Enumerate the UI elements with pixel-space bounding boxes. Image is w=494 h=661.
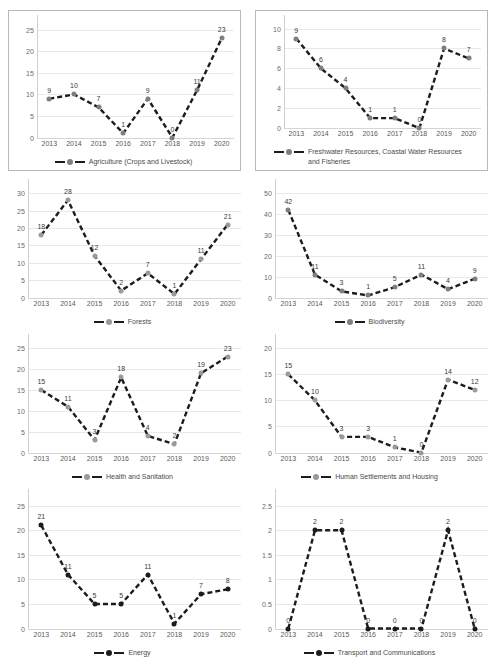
- series-line: [275, 179, 488, 298]
- x-axis-labels: 20132014201520162017201820192020: [28, 453, 241, 468]
- data-point-marker: [392, 116, 397, 121]
- data-point-marker: [312, 528, 317, 533]
- x-tick-label: 2019: [440, 631, 456, 638]
- x-tick-label: 2018: [414, 631, 430, 638]
- data-point-marker: [419, 272, 424, 277]
- y-tick-label: 25: [17, 207, 25, 214]
- chart-legend: Freshwater Resources, Coastal Water Reso…: [260, 143, 481, 168]
- x-axis-labels: 20132014201520162017201820192020: [284, 128, 481, 143]
- y-tick-label: 10: [17, 576, 25, 583]
- data-label: 11: [311, 263, 318, 270]
- data-point-marker: [47, 96, 52, 101]
- data-label: 21: [37, 513, 45, 520]
- data-label: 9: [294, 27, 298, 34]
- x-tick-label: 2016: [115, 140, 131, 147]
- x-tick-label: 2016: [360, 455, 376, 462]
- x-tick-label: 2014: [60, 631, 76, 638]
- y-tick-label: 8: [277, 45, 281, 52]
- data-point-marker: [472, 387, 477, 392]
- x-axis-labels: 20132014201520162017201820192020: [28, 298, 241, 313]
- data-label: 4: [344, 76, 348, 83]
- chart-panel-freshwater: 0246810964110872013201420152016201720182…: [255, 10, 488, 171]
- data-point-marker: [286, 207, 291, 212]
- data-label: 15: [284, 362, 292, 369]
- data-point-marker: [339, 289, 344, 294]
- plot-region: 00.511.522.502200020: [251, 489, 488, 629]
- y-tick-label: 10: [26, 91, 34, 98]
- plot-area: 02200020: [275, 489, 488, 629]
- data-label: 1: [366, 283, 370, 290]
- data-label: 5: [393, 275, 397, 282]
- data-point-marker: [199, 257, 204, 262]
- y-tick-label: 0: [21, 294, 25, 301]
- y-tick-label: 5: [21, 277, 25, 284]
- plot-area: 151033101412: [275, 334, 488, 453]
- x-tick-label: 2015: [87, 455, 103, 462]
- plot-region: 051015202591071901123: [13, 15, 234, 138]
- x-tick-label: 2013: [34, 300, 50, 307]
- plot-region: 024681096411087: [260, 15, 481, 128]
- plot-area: 91071901123: [37, 15, 234, 138]
- chart-panel-transport-communications: 00.511.522.50220002020132014201520162017…: [247, 485, 494, 661]
- data-point-marker: [343, 86, 348, 91]
- y-tick-label: 15: [17, 386, 25, 393]
- data-point-marker: [65, 572, 70, 577]
- series-line: [275, 334, 488, 453]
- y-tick-label: 0: [268, 625, 272, 632]
- data-label: 0: [286, 617, 290, 624]
- chart-legend: Transport and Communications: [251, 644, 488, 659]
- y-tick-label: 5: [268, 423, 272, 430]
- data-point-marker: [39, 523, 44, 528]
- x-tick-label: 2014: [313, 130, 329, 137]
- x-tick-label: 2016: [360, 631, 376, 638]
- legend-label: Freshwater Resources, Coastal Water Reso…: [308, 147, 467, 166]
- data-label: 9: [47, 87, 51, 94]
- x-tick-label: 2019: [193, 631, 209, 638]
- data-label: 0: [419, 617, 423, 624]
- legend-swatch-icon: [304, 649, 334, 657]
- data-point-marker: [339, 434, 344, 439]
- data-label: 2: [446, 518, 450, 525]
- y-tick-label: 15: [17, 551, 25, 558]
- data-point-marker: [368, 116, 373, 121]
- data-label: 23: [224, 345, 232, 352]
- x-tick-label: 2013: [42, 140, 58, 147]
- data-label: 2: [340, 518, 344, 525]
- legend-label: Human Settlements and Housing: [335, 472, 438, 481]
- plot-area: 42113151149: [275, 179, 488, 298]
- chart-legend: Agriculture (Crops and Livestock): [13, 153, 234, 168]
- x-tick-label: 2017: [140, 300, 156, 307]
- y-axis-labels: 0510152025: [4, 334, 28, 453]
- legend-swatch-icon: [94, 318, 124, 326]
- data-point-marker: [145, 271, 150, 276]
- data-point-marker: [392, 445, 397, 450]
- data-point-marker: [39, 232, 44, 237]
- x-tick-label: 2015: [334, 300, 350, 307]
- series-line: [28, 179, 241, 298]
- data-point-marker: [446, 377, 451, 382]
- x-axis-labels: 20132014201520162017201820192020: [275, 298, 488, 313]
- data-point-marker: [172, 621, 177, 626]
- x-tick-label: 2018: [167, 455, 183, 462]
- y-tick-label: 0: [268, 449, 272, 456]
- x-tick-label: 2017: [387, 455, 403, 462]
- y-tick-label: 20: [264, 345, 272, 352]
- y-tick-label: 20: [17, 527, 25, 534]
- x-tick-label: 2020: [220, 300, 236, 307]
- x-tick-label: 2016: [113, 455, 129, 462]
- data-label: 0: [393, 617, 397, 624]
- data-label: 2: [313, 518, 317, 525]
- x-tick-label: 2018: [165, 140, 181, 147]
- data-label: 1: [172, 282, 176, 289]
- y-tick-label: 25: [26, 26, 34, 33]
- series-line: [275, 489, 488, 629]
- series-line: [28, 489, 241, 629]
- chart-legend: Human Settlements and Housing: [251, 468, 488, 483]
- data-label: 0: [419, 441, 423, 448]
- data-label: 4: [446, 277, 450, 284]
- x-tick-label: 2019: [189, 140, 205, 147]
- data-label: 23: [218, 26, 226, 33]
- chart-legend: Biodiversity: [251, 313, 488, 328]
- data-label: 18: [117, 365, 125, 372]
- legend-swatch-icon: [55, 158, 85, 166]
